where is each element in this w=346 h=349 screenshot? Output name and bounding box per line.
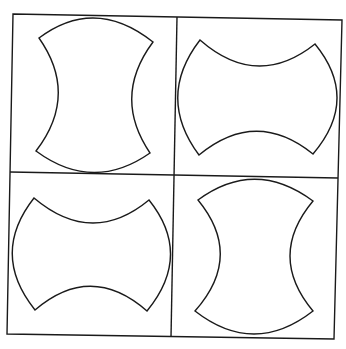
- tile-diagram: [0, 0, 346, 349]
- tile-shape-bottom-left: [12, 198, 170, 311]
- vertical-divider: [171, 17, 177, 337]
- tile-shape-bottom-right: [195, 179, 313, 334]
- tile-shape-top-left: [36, 18, 153, 173]
- tile-shape-top-right: [178, 40, 337, 155]
